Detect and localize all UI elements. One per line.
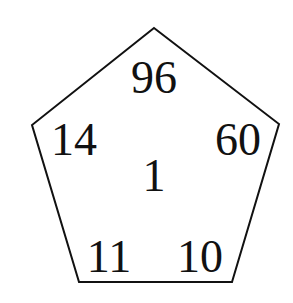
number-upper-left: 14 <box>51 114 97 165</box>
number-lower-right: 10 <box>177 231 223 282</box>
pentagon-diagram: 96 14 60 1 11 10 <box>0 0 293 303</box>
number-upper-right: 60 <box>215 114 261 165</box>
number-center: 1 <box>143 150 166 201</box>
number-lower-left: 11 <box>87 231 131 282</box>
number-top: 96 <box>131 52 177 103</box>
pentagon-canvas: 96 14 60 1 11 10 <box>0 0 293 303</box>
